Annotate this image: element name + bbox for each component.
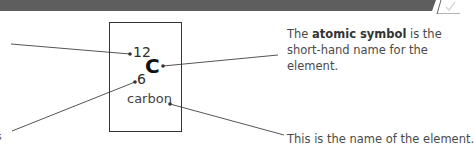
callout-bold-term: atomic symbol — [312, 27, 406, 41]
name-leader — [170, 104, 284, 135]
element-name: carbon — [127, 91, 172, 106]
cut-off-label: s — [0, 130, 2, 143]
atomic-symbol-callout: The atomic symbol is the short-hand name… — [287, 26, 459, 74]
atomic-number: 6 — [137, 71, 146, 87]
element-name-callout: This is the name of the element. — [287, 131, 474, 147]
callout-prefix: The — [287, 27, 312, 41]
atomic-symbol: C — [145, 54, 160, 78]
